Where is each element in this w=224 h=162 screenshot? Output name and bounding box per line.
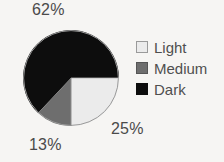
chart-legend: Light Medium Dark [136, 37, 222, 100]
pie-chart-svg [23, 30, 119, 126]
data-label-dark: 62% [32, 2, 65, 18]
pie-chart-plot [23, 30, 119, 126]
legend-label-light: Light [154, 40, 187, 55]
legend-item-medium[interactable]: Medium [136, 58, 222, 78]
legend-swatch-dark-icon [136, 83, 148, 95]
legend-swatch-medium-icon [136, 62, 148, 74]
data-label-medium: 13% [29, 137, 62, 153]
legend-label-dark: Dark [154, 82, 186, 97]
legend-item-dark[interactable]: Dark [136, 79, 222, 99]
pie-chart-figure: 62% 25% 13% Light Medium Dark [0, 0, 224, 162]
legend-swatch-light-icon [136, 41, 148, 53]
legend-label-medium: Medium [154, 61, 207, 76]
legend-item-light[interactable]: Light [136, 37, 222, 57]
data-label-light: 25% [111, 121, 144, 137]
